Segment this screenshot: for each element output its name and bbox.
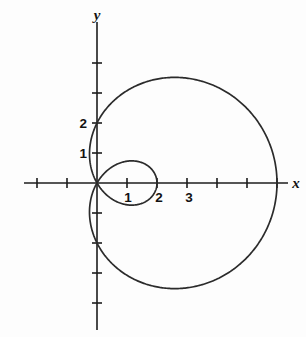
y-tick-label-2: 2	[79, 116, 87, 131]
x-tick-label-3: 3	[185, 190, 193, 205]
x-tick-label-1: 1	[124, 190, 132, 205]
plot-canvas: 1 2 3 1 2 x y	[0, 0, 306, 337]
x-axis-label: x	[291, 175, 300, 191]
polar-plot-figure: 1 2 3 1 2 x y	[0, 0, 306, 337]
x-tick-label-2: 2	[155, 190, 163, 205]
y-tick-label-1: 1	[79, 146, 87, 161]
y-axis-label: y	[92, 7, 101, 23]
